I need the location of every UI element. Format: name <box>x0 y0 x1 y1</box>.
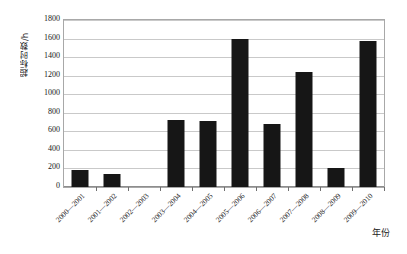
y-axis-tick-label: 400 <box>30 145 60 153</box>
bar-series <box>64 20 384 187</box>
bar[interactable] <box>72 170 89 187</box>
y-axis-tick-label: 800 <box>30 108 60 116</box>
bar[interactable] <box>104 174 121 187</box>
bar-slot <box>64 20 96 187</box>
y-axis-tick-label: 0 <box>30 182 60 190</box>
y-axis-tick-label: 600 <box>30 126 60 134</box>
bar[interactable] <box>328 168 345 187</box>
bar[interactable] <box>200 121 217 187</box>
bar[interactable] <box>296 72 313 187</box>
bar-slot <box>160 20 192 187</box>
bar[interactable] <box>360 41 377 187</box>
bar-slot <box>352 20 384 187</box>
bar-slot <box>224 20 256 187</box>
bar[interactable] <box>264 124 281 187</box>
bar-slot <box>96 20 128 187</box>
bar-chart-figure: 超标时数/h 020040060080010001200140016001800… <box>0 0 407 254</box>
y-axis-tick-label: 200 <box>30 163 60 171</box>
bar-slot <box>128 20 160 187</box>
y-axis-tick-label: 1400 <box>30 52 60 60</box>
bar-slot <box>256 20 288 187</box>
y-axis-tick-label: 1000 <box>30 89 60 97</box>
bar-slot <box>192 20 224 187</box>
bar[interactable] <box>168 120 185 187</box>
bar-slot <box>320 20 352 187</box>
bar[interactable] <box>232 39 249 187</box>
y-axis-tick-label: 1800 <box>30 15 60 23</box>
bar-slot <box>288 20 320 187</box>
x-axis-tick-labels: 2000—20012001—20022002—20032003—20042004… <box>63 188 385 238</box>
x-axis-title: 年份 <box>372 228 390 238</box>
y-axis-tick-label: 1600 <box>30 34 60 42</box>
y-axis-tick-label: 1200 <box>30 71 60 79</box>
plot-area <box>63 19 385 188</box>
